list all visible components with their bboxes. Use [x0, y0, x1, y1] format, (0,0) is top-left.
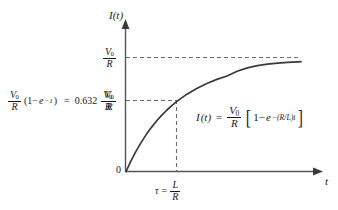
fraction-l-over-r: L R: [170, 180, 180, 202]
tau-symbol: τ: [155, 186, 159, 196]
fraction-numerator: V0: [227, 105, 241, 117]
subscript-zero: 0: [16, 93, 19, 100]
x-axis: [126, 168, 324, 176]
y-tick-label-asymptote: V0 R: [103, 47, 116, 69]
bracket-open: [: [246, 111, 251, 124]
y-axis-label: I(t): [109, 10, 123, 21]
fraction-denominator: R: [8, 101, 21, 113]
one-minus: 1−: [253, 112, 265, 123]
y-axis-label-text: I(t): [109, 9, 123, 21]
y-axis: [122, 19, 130, 172]
subscript-zero: 0: [109, 93, 112, 100]
fraction-v0-over-r: V0 R: [103, 47, 116, 69]
fraction-v0-over-r-result: V0 R: [101, 90, 114, 112]
origin-label-text: 0: [116, 164, 121, 175]
fraction-numerator: V0: [101, 90, 114, 101]
equals-sign: =: [162, 186, 168, 196]
subscript-zero: 0: [111, 50, 114, 57]
rl-circuit-current-growth-figure: I(t) t 0 V0 R V0 R τ = L R: [0, 0, 338, 210]
equation-lhs-symbol: I: [196, 112, 200, 123]
exponent-expression: −(R/L)t: [272, 114, 296, 122]
exponential-base: e: [266, 112, 271, 123]
equals-sign: =: [216, 112, 222, 123]
paren-close: ): [54, 96, 57, 106]
fraction-v0-over-r: V0 R: [8, 90, 21, 112]
fraction-denominator: R: [227, 117, 241, 130]
time-constant-annotation: V0 R (1− e −1 ) = 0.632 V0 R: [8, 90, 114, 112]
fraction-numerator: V0: [103, 47, 116, 58]
fraction-numerator: V0: [8, 90, 21, 101]
x-tick-label-tau: τ = L R: [155, 180, 180, 202]
paren-open-one-minus: (1−: [24, 96, 38, 106]
fraction-denominator: R: [170, 191, 180, 203]
x-axis-label-text: t: [325, 175, 328, 187]
fraction-numerator: L: [170, 180, 180, 191]
subscript-zero: 0: [236, 109, 240, 118]
fraction-denominator: R: [101, 101, 114, 113]
origin-label: 0: [116, 165, 121, 175]
fraction-v0-over-r: V0 R: [227, 105, 241, 130]
coefficient-value: 0.632: [75, 96, 98, 106]
exponential-base: e: [39, 96, 43, 106]
fraction-denominator: R: [103, 58, 116, 70]
equals-sign: =: [64, 96, 70, 106]
exponent-minus-one: −1: [44, 98, 52, 105]
equation-lhs-argument: (t): [201, 112, 211, 123]
current-equation: I (t) = V0 R [ 1− e −(R/L)t ]: [196, 105, 304, 130]
x-axis-label: t: [325, 176, 328, 187]
bracket-close: ]: [298, 111, 303, 124]
